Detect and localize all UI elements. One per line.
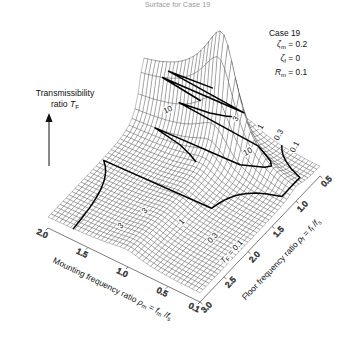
annotation-row: ζf = 0 bbox=[269, 53, 307, 67]
vertical-axis-label-subscript: F bbox=[75, 102, 79, 109]
left-axis-tick-label: 2.0 bbox=[35, 227, 50, 240]
right-axis-tick-label: 2.5 bbox=[223, 275, 238, 290]
right-axis-tick-label: 3.0 bbox=[199, 300, 214, 315]
contour-label: 0.3 bbox=[272, 127, 285, 142]
right-axis-tick-label: 1.5 bbox=[271, 224, 286, 239]
annotation-subscript: m bbox=[281, 72, 286, 78]
left-axis-tick-label: 1.5 bbox=[75, 247, 90, 260]
right-axis-tick-label: 0.5 bbox=[319, 174, 334, 189]
vertical-axis-label-line2-prefix: ratio bbox=[51, 99, 70, 109]
annotation-subscript: f bbox=[284, 58, 286, 64]
annotation-value: = 0.1 bbox=[288, 67, 307, 78]
annotation-subscript: m bbox=[281, 44, 286, 50]
vertical-axis-label-line1: Transmissibility bbox=[36, 88, 94, 98]
left-axis-tick-label: 0.5 bbox=[155, 286, 170, 299]
right-axis-tick-label: 2.0 bbox=[247, 250, 262, 265]
annotation-row: ζm = 0.2 bbox=[269, 39, 307, 53]
contour-label: 0.1 bbox=[288, 139, 301, 154]
annotation-case-title: Case 19 bbox=[269, 28, 307, 39]
vertical-axis-arrow bbox=[45, 113, 52, 166]
right-axis-tick-label: 1.0 bbox=[295, 199, 310, 214]
vertical-axis-label: Transmissibility ratio TF bbox=[22, 88, 108, 112]
left-axis-tick-label: 1.0 bbox=[115, 266, 130, 279]
annotation-value: = 0 bbox=[288, 53, 300, 64]
case-annotation-block: Case 19 ζm = 0.2 ζf = 0 Rm = 0.1 bbox=[269, 28, 307, 81]
annotation-row: Rm = 0.1 bbox=[269, 67, 307, 81]
annotation-value: = 0.2 bbox=[288, 39, 307, 50]
